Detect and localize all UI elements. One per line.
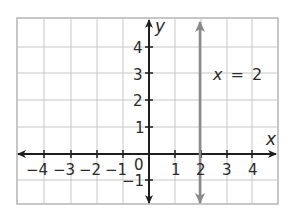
coordinate-plane: y x −4 −3 −2 −1 0 1 2 3 4 4 3 2 1 −1 x =… — [0, 0, 287, 211]
x-tick-label: 3 — [222, 161, 232, 179]
x-tick-label: 4 — [248, 161, 258, 179]
y-tick-label: 2 — [133, 92, 143, 110]
x-tick-label: 2 — [196, 161, 206, 179]
equation-equals: = — [231, 65, 244, 84]
x-tick-label: −2 — [79, 161, 101, 179]
equation-variable: x — [212, 65, 223, 84]
x-tick-label: 1 — [171, 161, 181, 179]
y-tick-label: −1 — [122, 172, 144, 190]
y-axis-label: y — [154, 16, 166, 36]
y-tick-label: 4 — [133, 39, 143, 57]
equation-value: 2 — [252, 65, 262, 84]
x-tick-label: −3 — [53, 161, 75, 179]
y-tick-label: 3 — [133, 66, 143, 84]
x-axis-label: x — [265, 129, 277, 149]
x-tick-label: −4 — [26, 161, 48, 179]
equation-label: x = 2 — [212, 65, 262, 84]
y-tick-label: 1 — [135, 119, 145, 137]
